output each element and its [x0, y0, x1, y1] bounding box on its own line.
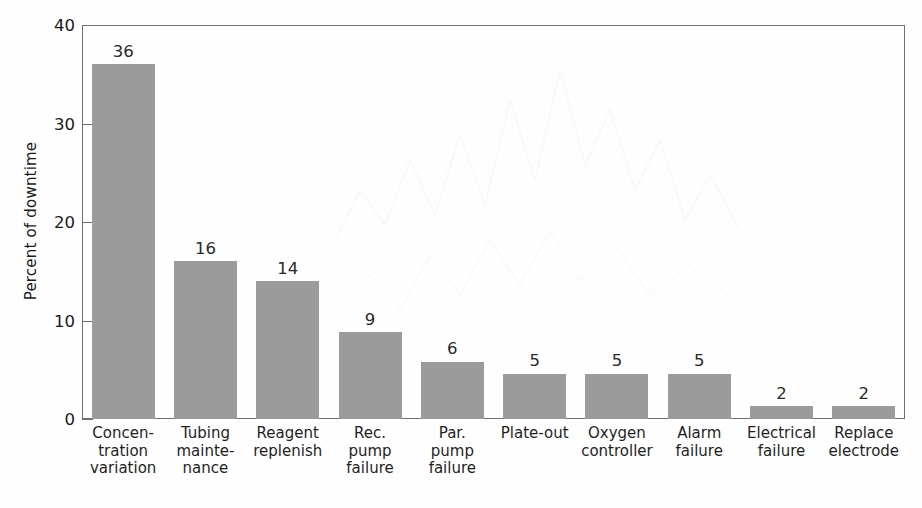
x-category-label: Reagentreplenish: [247, 425, 329, 460]
x-category-label: Tubingmainte-nance: [164, 425, 246, 478]
x-category-label-line: nance: [164, 460, 246, 478]
x-category-label-line: tration: [82, 443, 164, 461]
x-category-label-line: failure: [411, 460, 493, 478]
bar: 2: [750, 406, 813, 419]
bar-value-label: 5: [612, 353, 623, 370]
x-category-label: Replaceelectrode: [823, 425, 905, 460]
bar: 6: [421, 362, 484, 419]
x-category-label-line: Alarm: [658, 425, 740, 443]
bar-value-label: 5: [694, 353, 705, 370]
x-category-label-line: Rec.: [329, 425, 411, 443]
bar-value-label: 5: [529, 353, 540, 370]
x-category-label-line: failure: [658, 443, 740, 461]
x-category-label-line: Electrical: [740, 425, 822, 443]
x-category-label: Par.pumpfailure: [411, 425, 493, 478]
bar-value-label: 2: [859, 386, 870, 403]
x-category-label-line: replenish: [247, 443, 329, 461]
y-tick-label: 20: [54, 215, 75, 232]
bar-value-label: 9: [365, 312, 376, 329]
x-category-label-line: Par.: [411, 425, 493, 443]
x-category-label-line: pump: [329, 443, 411, 461]
y-tick-0: 0: [82, 419, 93, 420]
x-category-label: Oxygencontroller: [576, 425, 658, 460]
bar: 5: [503, 374, 566, 419]
bar-value-label: 14: [277, 261, 298, 278]
x-category-label-line: electrode: [823, 443, 905, 461]
bar: 2: [832, 406, 895, 419]
x-category-label-line: failure: [740, 443, 822, 461]
x-category-label-line: Concen-: [82, 425, 164, 443]
x-category-label: Rec.pumpfailure: [329, 425, 411, 478]
y-tick-label: 40: [54, 18, 75, 35]
x-category-label-line: mainte-: [164, 443, 246, 461]
x-category-label-line: failure: [329, 460, 411, 478]
y-tick-label: 0: [65, 412, 76, 429]
bar: 5: [585, 374, 648, 419]
x-category-label-line: Reagent: [247, 425, 329, 443]
y-tick-label: 10: [54, 313, 75, 330]
bar-value-label: 6: [447, 341, 458, 358]
bar: 9: [339, 332, 402, 419]
x-category-label: Concen-trationvariation: [82, 425, 164, 478]
x-category-label: Electricalfailure: [740, 425, 822, 460]
bar-value-label: 2: [776, 386, 787, 403]
x-category-label-line: Oxygen: [576, 425, 658, 443]
x-category-label-line: Tubing: [164, 425, 246, 443]
bar: 36: [92, 64, 155, 419]
bar-value-label: 16: [195, 241, 216, 258]
x-category-label-line: variation: [82, 460, 164, 478]
x-category-label-line: Plate-out: [494, 425, 576, 443]
x-category-label-line: controller: [576, 443, 658, 461]
bar: 5: [668, 374, 731, 419]
y-tick-40: 40: [82, 25, 93, 26]
bar-value-label: 36: [113, 44, 134, 61]
bar-chart: Percent of downtime 010203040 3616149655…: [0, 0, 922, 508]
bar: 14: [256, 281, 319, 419]
plot-area: 010203040 3616149655522: [82, 25, 905, 419]
x-category-label: Plate-out: [494, 425, 576, 443]
bar: 16: [174, 261, 237, 419]
y-tick-label: 30: [54, 116, 75, 133]
x-category-label-line: Replace: [823, 425, 905, 443]
y-axis-title: Percent of downtime: [22, 111, 40, 331]
x-category-label: Alarmfailure: [658, 425, 740, 460]
x-category-label-line: pump: [411, 443, 493, 461]
